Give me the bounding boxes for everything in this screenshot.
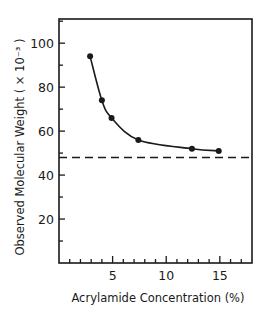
data-points (87, 53, 222, 154)
data-point-marker (135, 137, 141, 143)
x-tick-label: 15 (212, 268, 228, 283)
y-axis-label: Observed Molecular Weight ( × 10⁻³ ) (13, 38, 27, 255)
y-tick-label: 80 (38, 80, 54, 95)
data-point-marker (87, 53, 93, 59)
x-tick-label: 10 (158, 268, 174, 283)
data-point-marker (189, 146, 195, 152)
curve-path (90, 56, 219, 151)
y-tick-label: 60 (38, 124, 54, 139)
x-tick-label: 5 (109, 268, 117, 283)
x-axis-label: Acrylamide Concentration (%) (71, 291, 244, 305)
y-tick-label: 20 (38, 212, 54, 227)
chart: 5101520406080100 Acrylamide Concentratio… (0, 0, 266, 316)
y-tick-label: 100 (30, 36, 54, 51)
data-point-marker (99, 97, 105, 103)
data-point-marker (109, 115, 115, 121)
axis-ticks (59, 21, 241, 263)
data-point-marker (216, 148, 222, 154)
fitted-curve (90, 56, 219, 151)
y-tick-label: 40 (38, 168, 54, 183)
